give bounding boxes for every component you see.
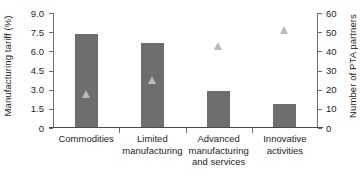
y-axis-left-tick-label: 7.5 xyxy=(31,27,44,38)
y-axis-left-tick-labels: 01.53.04.56.07.59.0 xyxy=(14,0,48,131)
x-axis-category-label-line: manufacturing xyxy=(183,145,255,157)
y-axis-left-tickmark xyxy=(49,71,53,72)
y-axis-left-title-text: Manufacturing tariff (%) xyxy=(2,15,13,116)
y-axis-right-tickmark xyxy=(318,128,322,129)
x-axis-category-label: Innovativeactivities xyxy=(249,133,321,156)
x-axis-category-label-line: manufacturing xyxy=(116,145,188,157)
x-axis-category-label: Commodities xyxy=(50,133,122,145)
triangle-marker xyxy=(280,26,288,34)
bar xyxy=(75,34,98,127)
x-axis-category-labels: CommoditiesLimitedmanufacturingAdvancedm… xyxy=(53,133,318,173)
y-axis-right-tick-label: 50 xyxy=(326,27,337,38)
x-axis-category-label-line: Commodities xyxy=(50,133,122,145)
y-axis-left-tick-label: 6.0 xyxy=(31,46,44,57)
x-axis-category-label-line: Advanced xyxy=(183,133,255,145)
x-axis-category-label: Limitedmanufacturing xyxy=(116,133,188,156)
y-axis-right-tickmark xyxy=(318,109,322,110)
y-axis-right-tick-label: 10 xyxy=(326,103,337,114)
chart-figure: Manufacturing tariff (%) Number of PTA p… xyxy=(0,0,360,173)
x-axis-category-label-line: activities xyxy=(249,145,321,157)
x-axis-category-label-line: and services xyxy=(183,156,255,168)
y-axis-left-tick-label: 9.0 xyxy=(31,8,44,19)
y-axis-left-tick-label: 0 xyxy=(39,123,44,134)
y-axis-left-tickmark xyxy=(49,90,53,91)
y-axis-right-tickmark xyxy=(318,71,322,72)
y-axis-right-tickmark xyxy=(318,32,322,33)
y-axis-right-tick-label: 40 xyxy=(326,46,337,57)
y-axis-right-title: Number of PTA partners xyxy=(345,0,359,131)
triangle-marker xyxy=(148,76,156,84)
y-axis-left-tick-label: 4.5 xyxy=(31,65,44,76)
triangle-marker xyxy=(82,90,90,98)
plot-area xyxy=(53,13,318,128)
triangle-marker xyxy=(214,42,222,50)
x-axis-category-label-line: Innovative xyxy=(249,133,321,145)
axis-spine-left xyxy=(53,13,54,128)
y-axis-right-tick-label: 0 xyxy=(326,123,331,134)
y-axis-left-tickmark xyxy=(49,51,53,52)
y-axis-right-title-text: Number of PTA partners xyxy=(347,14,358,118)
y-axis-right-tickmark xyxy=(318,51,322,52)
bar xyxy=(207,91,230,127)
y-axis-right-tickmark xyxy=(318,13,322,14)
bar xyxy=(141,43,164,127)
y-axis-left-tick-label: 3.0 xyxy=(31,84,44,95)
y-axis-right-tick-labels: 0102030405060 xyxy=(324,0,346,131)
x-axis-category-label-line: Limited xyxy=(116,133,188,145)
x-axis-category-label: Advancedmanufacturingand services xyxy=(183,133,255,168)
y-axis-right-tick-label: 20 xyxy=(326,84,337,95)
y-axis-left-tickmark xyxy=(49,128,53,129)
y-axis-left-title: Manufacturing tariff (%) xyxy=(0,0,14,131)
y-axis-right-tickmark xyxy=(318,90,322,91)
y-axis-right-tick-label: 60 xyxy=(326,8,337,19)
bar xyxy=(273,104,296,127)
y-axis-left-tickmark xyxy=(49,32,53,33)
y-axis-left-tickmark xyxy=(49,13,53,14)
y-axis-left-tick-label: 1.5 xyxy=(31,103,44,114)
y-axis-left-tickmark xyxy=(49,109,53,110)
y-axis-right-tick-label: 30 xyxy=(326,65,337,76)
